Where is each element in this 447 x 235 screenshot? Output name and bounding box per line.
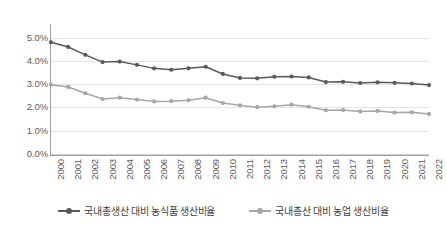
chart-legend: 국내총생산 대비 농식품 생산비율 국내총산 대비 농업 생산비율 <box>0 203 447 218</box>
data-point <box>393 110 397 114</box>
data-point <box>135 63 139 67</box>
series-line <box>51 85 429 114</box>
x-tick-label: 2004 <box>124 159 135 180</box>
data-point <box>238 76 242 80</box>
data-point <box>169 99 173 103</box>
x-tick-label: 2003 <box>107 159 118 180</box>
data-point <box>83 53 87 57</box>
y-tick-label: 2.0% <box>4 102 48 112</box>
x-tick-label: 2008 <box>192 159 203 180</box>
x-axis-line <box>51 155 429 156</box>
data-point <box>272 104 276 108</box>
data-point <box>341 108 345 112</box>
plot-area <box>51 26 429 154</box>
series-layer <box>51 26 429 154</box>
legend-marker-icon <box>249 206 271 215</box>
x-tick-label: 2022 <box>433 159 444 180</box>
data-point <box>358 81 362 85</box>
data-point <box>255 105 259 109</box>
legend-item-1[interactable]: 국내총산 대비 농업 생산비율 <box>249 203 388 218</box>
data-point <box>393 81 397 85</box>
x-tick-label: 2013 <box>278 159 289 180</box>
y-axis-tick-labels: 0.0%1.0%2.0%3.0%4.0%5.0% <box>0 0 48 235</box>
data-point <box>100 97 104 101</box>
series-1 <box>49 83 431 117</box>
series-0 <box>49 40 431 87</box>
x-tick-label: 2017 <box>347 159 358 180</box>
data-point <box>289 103 293 107</box>
y-tick-label: 3.0% <box>4 79 48 89</box>
x-tick-label: 2007 <box>175 159 186 180</box>
legend-item-0[interactable]: 국내총생산 대비 농식품 생산비율 <box>58 203 215 218</box>
x-tick-label: 2016 <box>330 159 341 180</box>
data-point <box>66 85 70 89</box>
data-point <box>118 60 122 64</box>
data-point <box>307 105 311 109</box>
x-tick-label: 2015 <box>313 159 324 180</box>
data-point <box>186 66 190 70</box>
data-point <box>221 72 225 76</box>
data-point <box>152 66 156 70</box>
x-tick-label: 2006 <box>158 159 169 180</box>
x-tick-label: 2010 <box>227 159 238 180</box>
data-point <box>49 40 53 44</box>
data-point <box>410 110 414 114</box>
x-tick-label: 2012 <box>261 159 272 180</box>
data-point <box>169 68 173 72</box>
data-point <box>204 96 208 100</box>
data-point <box>204 65 208 69</box>
x-tick-label: 2019 <box>381 159 392 180</box>
line-chart: 0.0%1.0%2.0%3.0%4.0%5.0% 200020012002200… <box>0 0 447 235</box>
x-tick-label: 2011 <box>244 159 255 179</box>
data-point <box>358 109 362 113</box>
legend-dot-1 <box>257 208 263 214</box>
data-point <box>49 83 53 87</box>
data-point <box>272 75 276 79</box>
x-axis-tick-labels: 2000200120022003200420052006200720082009… <box>51 157 429 199</box>
x-tick-label: 2020 <box>399 159 410 180</box>
x-tick-label: 2005 <box>141 159 152 180</box>
y-tick-label: 0.0% <box>4 149 48 159</box>
data-point <box>152 99 156 103</box>
data-point <box>427 112 431 116</box>
data-point <box>118 96 122 100</box>
data-point <box>221 101 225 105</box>
data-point <box>186 98 190 102</box>
data-point <box>375 80 379 84</box>
data-point <box>427 83 431 87</box>
data-point <box>375 109 379 113</box>
legend-marker-icon <box>58 206 80 215</box>
data-point <box>66 45 70 49</box>
y-tick-label: 5.0% <box>4 33 48 43</box>
y-tick-label: 1.0% <box>4 126 48 136</box>
x-tick-label: 2001 <box>72 159 83 180</box>
x-tick-label: 2000 <box>55 159 66 180</box>
gridline <box>51 154 429 155</box>
legend-dot-0 <box>66 208 72 214</box>
data-point <box>255 76 259 80</box>
data-point <box>307 75 311 79</box>
data-point <box>100 60 104 64</box>
data-point <box>135 97 139 101</box>
x-tick-label: 2009 <box>210 159 221 180</box>
data-point <box>341 80 345 84</box>
data-point <box>324 108 328 112</box>
x-tick-label: 2002 <box>89 159 100 180</box>
x-tick-label: 2021 <box>416 159 427 180</box>
data-point <box>324 80 328 84</box>
data-point <box>83 91 87 95</box>
data-point <box>410 81 414 85</box>
x-tick-label: 2014 <box>296 159 307 180</box>
data-point <box>238 103 242 107</box>
legend-label-1: 국내총산 대비 농업 생산비율 <box>275 203 388 218</box>
x-tick-label: 2018 <box>364 159 375 180</box>
y-tick-label: 4.0% <box>4 56 48 66</box>
legend-label-0: 국내총생산 대비 농식품 생산비율 <box>84 203 215 218</box>
data-point <box>289 74 293 78</box>
